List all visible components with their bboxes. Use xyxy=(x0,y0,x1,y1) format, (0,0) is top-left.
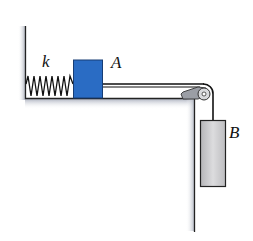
block-a xyxy=(74,60,103,98)
diagram-canvas xyxy=(0,0,253,241)
label-block-a: A xyxy=(111,54,121,71)
pulley xyxy=(181,84,213,100)
label-spring-k: k xyxy=(42,53,50,70)
spring xyxy=(26,76,73,96)
table-surface xyxy=(25,98,195,232)
left-wall xyxy=(18,26,26,100)
label-block-b: B xyxy=(229,124,239,141)
block-b xyxy=(201,121,226,187)
